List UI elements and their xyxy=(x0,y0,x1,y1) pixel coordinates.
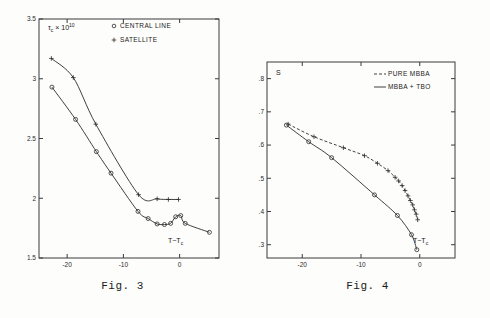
axis-frame xyxy=(39,19,219,258)
y-tick-label: .4 xyxy=(259,208,265,215)
legend-label-text: CENTRAL LINE xyxy=(120,22,171,29)
x-tick-label: 0 xyxy=(178,261,182,268)
series-line xyxy=(286,125,416,250)
series-2 xyxy=(284,123,418,252)
legend-label-text: SATELLITE xyxy=(120,36,158,43)
series-2 xyxy=(49,56,181,202)
y-tick-label: .5 xyxy=(259,175,265,182)
x-axis-title-text: T−Tc xyxy=(168,237,184,246)
axis-frame xyxy=(267,62,455,258)
series-1 xyxy=(50,85,212,234)
y-axis-title-text: S xyxy=(276,69,281,76)
series-line xyxy=(288,124,418,220)
y-tick-label: 1.5 xyxy=(27,254,36,261)
plot-frame xyxy=(267,62,455,258)
page-canvas: -20-1001.522.533.5τc × 1010T−TcCENTRAL L… xyxy=(0,0,490,318)
y-tick-label: 2 xyxy=(32,195,36,202)
figure-4-caption: Fig. 4 xyxy=(245,280,490,292)
y-tick-label: .3 xyxy=(259,241,265,248)
y-tick-label: 3.5 xyxy=(27,15,36,22)
figure-4-plot: -20-100.3.4.5.6.7.8ST−TcPURE MBBAMBBA + … xyxy=(245,0,490,280)
legend-label-text: PURE MBBA xyxy=(388,70,430,77)
y-tick-label: 2.5 xyxy=(27,135,36,142)
x-tick-label: -10 xyxy=(356,261,366,268)
y-tick-label: 3 xyxy=(32,75,36,82)
y-axis: 1.522.533.5 xyxy=(27,15,219,261)
figure-3: -20-1001.522.533.5τc × 1010T−TcCENTRAL L… xyxy=(0,0,245,318)
x-tick-label: -10 xyxy=(119,261,129,268)
figure-4: -20-100.3.4.5.6.7.8ST−TcPURE MBBAMBBA + … xyxy=(245,0,490,318)
legend: CENTRAL LINESATELLITE xyxy=(112,22,172,43)
y-axis: .3.4.5.6.7.8 xyxy=(259,75,455,248)
legend-label-text: MBBA + TBO xyxy=(388,83,431,90)
series-line xyxy=(52,87,210,232)
legend: PURE MBBAMBBA + TBO xyxy=(374,70,431,90)
x-tick-label: 0 xyxy=(418,261,422,268)
y-tick-label: .8 xyxy=(259,75,265,82)
y-tick-label: .7 xyxy=(259,108,265,115)
x-tick-label: -20 xyxy=(62,261,72,268)
figure-3-caption: Fig. 3 xyxy=(0,280,245,292)
x-tick-label: -20 xyxy=(298,261,308,268)
y-axis-title-text: τc × 1010 xyxy=(48,22,75,33)
series-1 xyxy=(286,122,420,222)
x-axis: -20-100 xyxy=(298,62,422,268)
y-axis-title: τc × 1010 xyxy=(48,22,75,33)
legend-marker-circle xyxy=(112,24,116,28)
y-tick-label: .6 xyxy=(259,141,265,148)
figure-3-plot: -20-1001.522.533.5τc × 1010T−TcCENTRAL L… xyxy=(0,0,245,280)
y-axis-title: S xyxy=(276,69,281,76)
x-axis: -20-100 xyxy=(62,19,181,268)
plot-frame xyxy=(39,19,219,258)
